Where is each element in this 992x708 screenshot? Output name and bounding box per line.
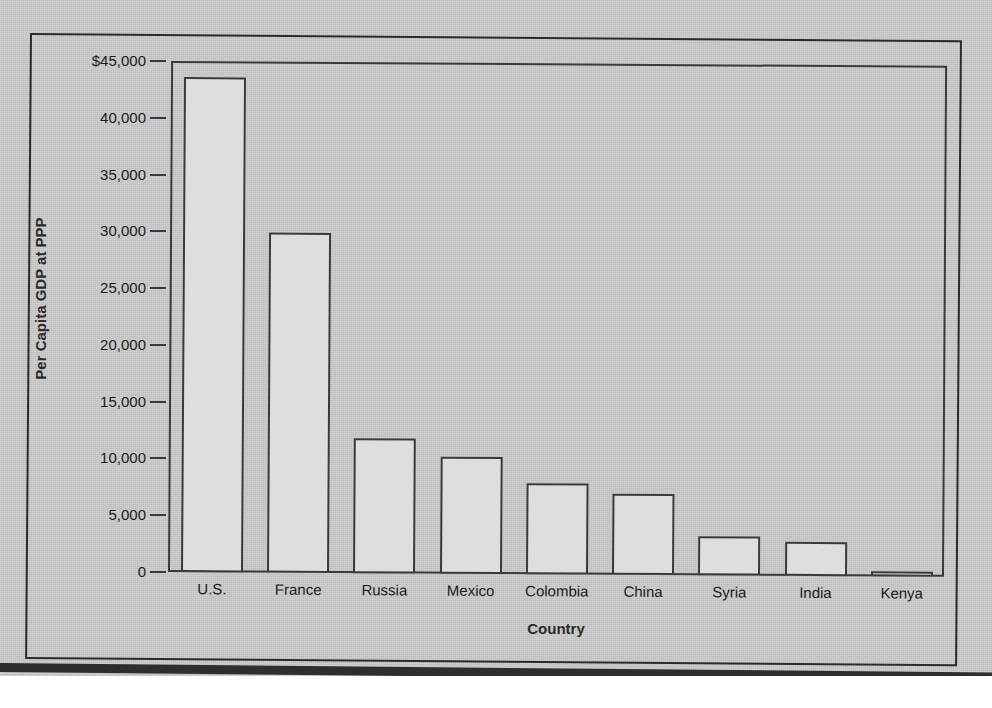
scanned-page: 05,00010,00015,00020,00025,00030,00035,0… xyxy=(0,0,992,678)
y-axis-tick-label: 15,000 xyxy=(36,394,146,409)
x-axis-title: Country xyxy=(168,620,944,637)
x-axis-tick-label: U.S. xyxy=(164,580,260,598)
bar-india xyxy=(785,542,847,576)
y-axis-tick xyxy=(150,287,166,289)
bar-mexico xyxy=(440,457,503,574)
y-axis-tick-label: 10,000 xyxy=(36,450,146,465)
y-axis-tick-label: 30,000 xyxy=(36,223,146,238)
x-axis-tick-label: Mexico xyxy=(423,582,519,600)
y-axis-tick-label: 5,000 xyxy=(36,507,146,522)
y-axis-tick xyxy=(150,514,166,516)
bar-chart: 05,00010,00015,00020,00025,00030,00035,0… xyxy=(0,0,992,678)
y-axis-tick-label: 40,000 xyxy=(36,110,146,125)
y-axis-tick xyxy=(150,344,166,346)
page-margin-white xyxy=(0,676,992,708)
bar-colombia xyxy=(526,483,589,574)
bar-china xyxy=(612,494,674,575)
y-axis-tick-label: 0 xyxy=(36,564,146,579)
bar-syria xyxy=(698,536,760,576)
y-axis-tick xyxy=(150,60,166,62)
y-axis-title: Per Capita GDP at PPP xyxy=(32,189,49,409)
x-axis-labels: U.S.FranceRussiaMexicoColombiaChinaSyria… xyxy=(168,580,944,611)
x-axis-tick-label: China xyxy=(595,583,691,601)
bar-france xyxy=(267,233,331,573)
y-axis-tick xyxy=(150,174,166,176)
x-axis-tick-label: Colombia xyxy=(509,582,605,600)
x-axis-tick-label: Kenya xyxy=(854,584,950,602)
y-axis-tick xyxy=(150,117,166,119)
y-axis-tick xyxy=(150,401,166,403)
y-axis-tick-label: $45,000 xyxy=(36,53,146,68)
bar-series xyxy=(168,61,947,577)
bar-us xyxy=(181,77,246,572)
y-axis-tick xyxy=(150,457,166,459)
x-axis-tick-label: India xyxy=(767,584,863,602)
y-axis-tick-label: 25,000 xyxy=(36,280,146,295)
x-axis-tick-label: Syria xyxy=(681,583,777,601)
y-axis-tick-label: 35,000 xyxy=(36,167,146,182)
x-axis-tick-label: Russia xyxy=(336,581,432,599)
y-axis-tick-label: 20,000 xyxy=(36,337,146,352)
x-axis-tick-label: France xyxy=(250,581,346,599)
y-axis-tick xyxy=(150,571,166,573)
bar-kenya xyxy=(871,571,933,576)
bar-russia xyxy=(353,438,416,574)
y-axis-tick xyxy=(150,230,166,232)
